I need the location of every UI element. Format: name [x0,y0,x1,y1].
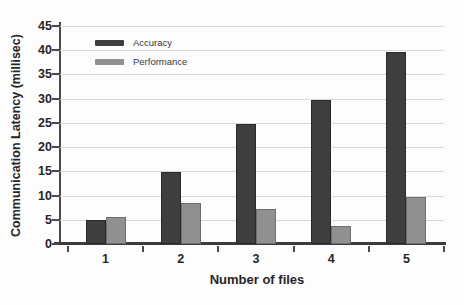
bar-accuracy-3 [236,124,256,244]
x-axis-tick-1 [142,246,144,252]
x-tick-label-4: 4 [311,251,351,267]
y-axis-tick-5 [52,219,59,221]
legend-swatch-accuracy [95,40,124,46]
bar-accuracy-5 [386,52,406,244]
x-axis-tick-0 [67,246,69,252]
y-axis-tick-25 [52,122,59,124]
y-axis-tick-40 [52,49,59,51]
y-tick-label-20: 20 [18,139,52,155]
bar-chart: Communication Latency (millisec) Accurac… [0,0,464,305]
legend-label-performance: Performance [133,56,187,67]
legend-label-accuracy: Accuracy [133,37,172,48]
y-axis-tick-15 [52,170,59,172]
legend-item-performance: Performance [95,56,187,67]
x-axis-tick-3 [293,246,295,252]
bar-accuracy-4 [311,100,331,244]
y-tick-label-10: 10 [18,188,52,204]
y-axis-tick-10 [52,195,59,197]
bar-performance-5 [406,197,426,244]
x-tick-label-2: 2 [161,251,201,267]
x-tick-label-3: 3 [236,251,276,267]
y-tick-label-30: 30 [18,91,52,107]
legend-item-accuracy: Accuracy [95,37,187,48]
y-axis-tick-30 [52,98,59,100]
y-tick-label-15: 15 [18,163,52,179]
x-axis-tick-4 [368,246,370,252]
y-tick-label-0: 0 [18,236,52,252]
y-tick-label-25: 25 [18,115,52,131]
x-tick-label-5: 5 [386,251,426,267]
y-axis-line [59,22,61,244]
bar-performance-2 [181,203,201,244]
x-axis-title: Number of files [157,271,357,289]
y-axis-tick-0 [52,243,59,245]
y-tick-label-5: 5 [18,212,52,228]
y-axis-tick-20 [52,146,59,148]
y-axis-tick-45 [52,25,59,27]
gridline-45 [60,26,444,27]
y-axis-tick-35 [52,73,59,75]
legend-swatch-performance [95,59,124,65]
bar-accuracy-2 [161,172,181,244]
bar-accuracy-1 [86,220,106,244]
bar-performance-1 [106,217,126,244]
y-tick-label-35: 35 [18,66,52,82]
x-tick-label-1: 1 [86,251,126,267]
x-axis-tick-5 [443,246,445,252]
bar-performance-3 [256,209,276,244]
y-tick-label-40: 40 [18,42,52,58]
legend: AccuracyPerformance [95,37,187,75]
x-axis-tick-2 [217,246,219,252]
y-tick-label-45: 45 [18,18,52,34]
bar-performance-4 [331,226,351,244]
